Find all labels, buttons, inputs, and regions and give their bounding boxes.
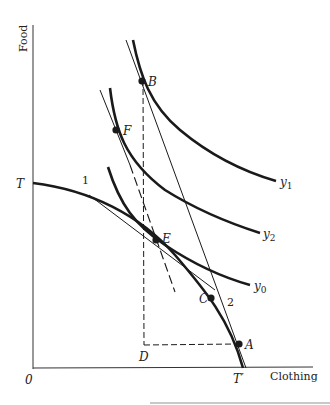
- label-b: B: [147, 75, 157, 89]
- point-f: [112, 126, 119, 133]
- y-axis-label: Food: [17, 25, 30, 52]
- indifference-curve-y2: [110, 88, 260, 233]
- label-e: E: [161, 232, 171, 246]
- trade-diagram: Food Clothing 0 T T′ B F E C A D 1 2 y1 …: [0, 0, 330, 405]
- label-d: D: [138, 350, 149, 364]
- point-a: [235, 340, 242, 347]
- label-t-prime: T′: [233, 372, 244, 386]
- point-b: [138, 77, 145, 84]
- label-line-2: 2: [227, 296, 234, 309]
- label-line-1: 1: [82, 174, 89, 187]
- price-line-1: [89, 195, 215, 290]
- production-frontier: [33, 183, 243, 368]
- x-axis: [33, 367, 313, 368]
- label-t: T: [16, 177, 25, 191]
- label-y1: y1: [279, 175, 293, 191]
- point-e: [152, 236, 159, 243]
- price-line-through-e: [130, 165, 175, 292]
- label-a: A: [244, 338, 254, 352]
- label-y2: y2: [262, 227, 276, 243]
- label-c: C: [199, 292, 208, 306]
- x-axis-label: Clothing: [270, 370, 318, 383]
- label-f: F: [122, 124, 132, 138]
- origin-label: 0: [25, 373, 33, 387]
- point-c: [207, 294, 214, 301]
- dashed-vertical-bd: [143, 80, 144, 345]
- dashed-horizontal-da: [144, 344, 238, 345]
- label-y0: y0: [253, 279, 267, 295]
- indifference-curve-y1: [133, 40, 276, 181]
